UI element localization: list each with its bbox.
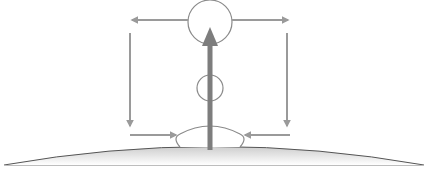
convection-diagram	[0, 0, 429, 170]
ground-surface	[4, 147, 424, 166]
